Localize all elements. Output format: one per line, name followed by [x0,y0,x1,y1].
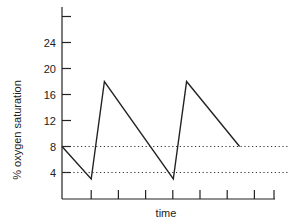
y-tick-label: 16 [44,89,56,101]
series-line [62,82,240,180]
y-axis-label: % oxygen saturation [11,80,23,180]
x-axis-label: time [156,207,177,219]
y-ticks [62,17,71,173]
axes [62,7,275,199]
y-tick-label: 12 [44,115,56,127]
y-tick-label: 4 [50,167,56,179]
data-series [62,82,240,180]
y-tick-label: 20 [44,63,56,75]
y-tick-label: 8 [50,141,56,153]
y-tick-label: 24 [44,37,56,49]
y-tick-labels: 4812162024 [44,37,56,179]
oxygen-saturation-chart: 4812162024 time % oxygen saturation [0,0,293,224]
x-ticks [91,190,274,199]
